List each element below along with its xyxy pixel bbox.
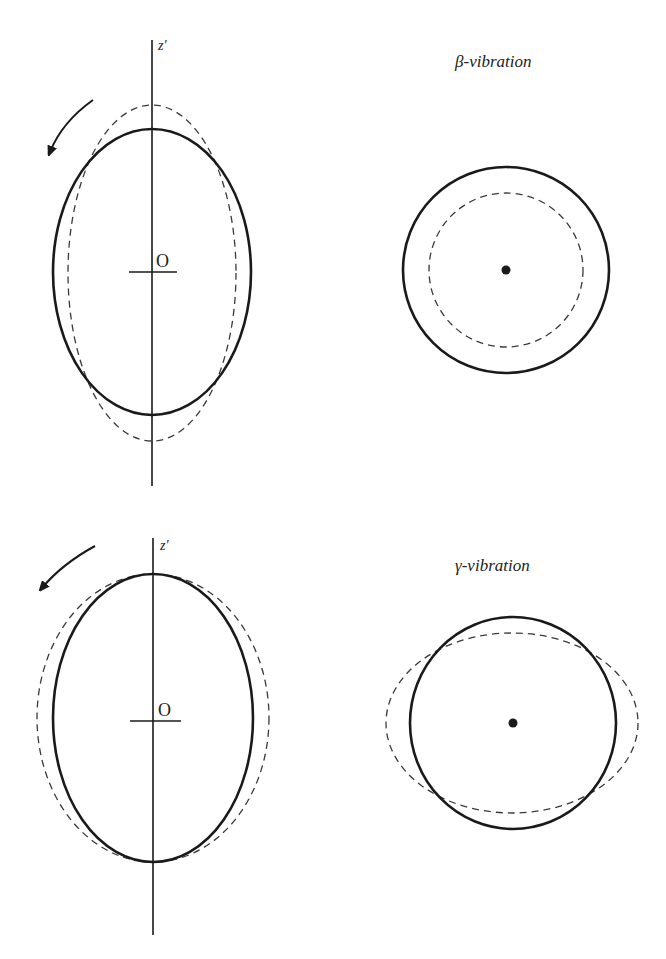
center-dot <box>509 719 518 728</box>
beta-z-axis-label: z′ <box>158 38 167 54</box>
beta-side-view <box>50 40 251 486</box>
gamma-side-view <box>37 538 269 935</box>
gamma-origin-label: O <box>158 700 171 721</box>
rotation-arrow-icon <box>42 546 95 588</box>
gamma-z-axis-label: z′ <box>160 538 169 554</box>
center-dot <box>502 266 511 275</box>
beta-origin-label: O <box>156 251 169 272</box>
rotation-arrow-icon <box>50 100 93 152</box>
gamma-end-view <box>386 617 638 829</box>
beta-vibration-title: β-vibration <box>455 52 531 72</box>
beta-end-view <box>403 167 609 373</box>
gamma-vibration-title: γ-vibration <box>455 556 530 576</box>
vibration-diagram <box>0 0 666 959</box>
